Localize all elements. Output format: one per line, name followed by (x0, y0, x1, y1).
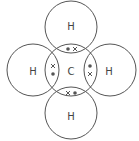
atom-labels: C H H H H (29, 21, 113, 122)
electron-cross (73, 47, 77, 51)
electron-cross (88, 72, 92, 76)
hydrogen-left-label: H (29, 66, 37, 77)
electron-cross (51, 64, 55, 68)
electron-dot (88, 64, 92, 68)
electron-dot (51, 72, 55, 76)
electron-dot (73, 91, 77, 95)
methane-diagram: C H H H H (0, 0, 139, 141)
carbon-label: C (68, 66, 75, 77)
electron-cross (66, 91, 70, 95)
electron-dot (66, 47, 70, 51)
hydrogen-top-label: H (67, 21, 75, 32)
hydrogen-right-label: H (105, 66, 113, 77)
hydrogen-bottom-label: H (67, 111, 75, 122)
